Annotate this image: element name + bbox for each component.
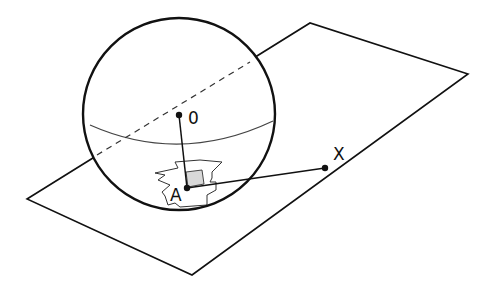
diagram-svg bbox=[0, 0, 495, 292]
point-x bbox=[322, 165, 328, 171]
diagram-canvas: 0 A X bbox=[0, 0, 495, 292]
point-center bbox=[176, 112, 182, 118]
point-a bbox=[184, 185, 190, 191]
right-angle-marker bbox=[186, 170, 204, 187]
label-center: 0 bbox=[188, 110, 199, 127]
label-a: A bbox=[170, 187, 182, 204]
label-x: X bbox=[333, 146, 345, 163]
